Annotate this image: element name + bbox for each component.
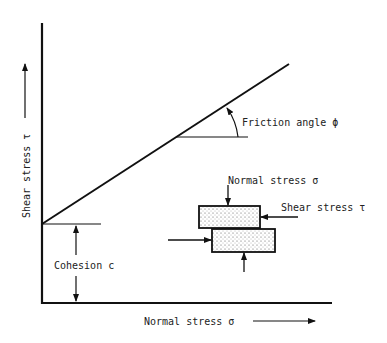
friction-angle-arc bbox=[227, 108, 238, 137]
mohr-coulomb-diagram: Cohesion c Friction angle ϕ Shear stress… bbox=[0, 0, 387, 343]
block-shear-stress-label: Shear stress τ bbox=[281, 202, 365, 213]
x-axis-label: Normal stress σ bbox=[144, 316, 234, 327]
y-axis-label: Shear stress τ bbox=[21, 134, 32, 218]
cohesion-label: Cohesion c bbox=[54, 260, 114, 271]
friction-angle-label: Friction angle ϕ bbox=[242, 117, 338, 128]
failure-envelope-line bbox=[42, 64, 289, 224]
lower-soil-block bbox=[212, 229, 275, 252]
block-normal-stress-label: Normal stress σ bbox=[228, 175, 318, 186]
upper-soil-block bbox=[199, 206, 260, 228]
